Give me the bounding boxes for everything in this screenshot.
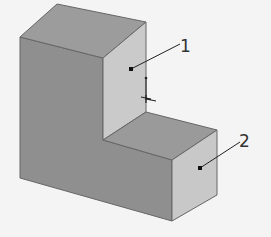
edge-marker-dot [145,77,148,80]
callout-label-2: 2 [239,131,250,151]
callout-label-1: 1 [180,36,191,56]
leader-dot-1 [129,67,133,71]
l-block-diagram: 1 2 [0,0,271,237]
leader-dot-2 [198,166,202,170]
